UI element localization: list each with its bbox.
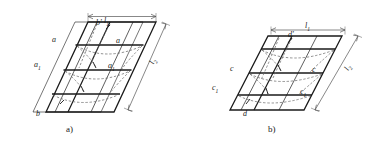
panel-a-label-upper-right: a (116, 37, 120, 45)
panel-b-label-lower-left: c1 (212, 84, 218, 94)
panel-b-label-bottom-node: d (243, 110, 247, 118)
panel-a-label-mid-left: a1 (34, 61, 41, 71)
panel-b-label-lower-right: c1 (300, 88, 306, 98)
panel-b-caption: b) (268, 124, 276, 134)
panel-a-dimension-l2 (124, 22, 170, 112)
panel-b-node-markers (246, 38, 292, 104)
panel-a-caption: a) (66, 124, 73, 134)
panel-b-label-mid-right: c (312, 66, 316, 74)
panel-a-outer-boundary (46, 22, 156, 112)
figure-canvas (0, 0, 386, 143)
panel-b-graphic (230, 27, 362, 112)
panel-b-dimension-l1-label: l1 (305, 22, 310, 32)
panel-a-deflection-curves (53, 24, 142, 103)
panel-a-label-top-node: b' (96, 19, 102, 27)
panel-a-label-mid-right: a1 (108, 62, 115, 72)
panel-a-label-bottom-node: b (36, 110, 40, 118)
panel-a-horizontal-ribs (52, 45, 144, 94)
panel-a-dimension-l1-label: l1 (104, 17, 109, 27)
panel-b-label-top-node: d' (288, 31, 294, 39)
panel-b-label-mid-left: c (230, 65, 234, 73)
panel-a-label-upper-left: a (52, 36, 56, 44)
